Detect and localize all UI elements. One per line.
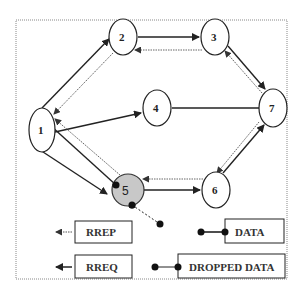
- edge-2-1-rrep: [54, 53, 113, 114]
- legend-data-label: DATA: [235, 226, 265, 238]
- node-7: 7: [259, 89, 287, 127]
- node-5-label: 5: [122, 184, 129, 198]
- edge-7-6-rrep: [217, 122, 259, 173]
- node-6-label: 6: [212, 184, 218, 196]
- node-1: 1: [29, 108, 55, 152]
- legend-rreq: RREQ: [56, 255, 132, 278]
- legend-dropped-data: DROPPED DATA: [152, 254, 286, 278]
- legend-data: DATA: [198, 219, 285, 243]
- legend-rrep: RREP: [56, 221, 132, 243]
- node-3: 3: [201, 19, 229, 55]
- routing-diagram: 1 2 3 4 5 6 7 RREP RREQ: [0, 0, 301, 295]
- edge-1-4-rreq: [55, 113, 141, 132]
- node-6: 6: [202, 172, 230, 208]
- edge-3-7-rreq: [228, 46, 265, 89]
- node-5: 5: [112, 174, 144, 209]
- node-1-label: 1: [38, 124, 44, 136]
- legend-dropped-data-label: DROPPED DATA: [189, 261, 275, 273]
- legend-rrep-label: RREP: [86, 226, 116, 238]
- node-7-label: 7: [269, 102, 275, 114]
- node-4-label: 4: [153, 102, 159, 114]
- edge-7-3-rrep: [225, 51, 262, 93]
- edge-1-5-rreq: [40, 150, 107, 194]
- node-4: 4: [143, 90, 171, 126]
- node-3-label: 3: [211, 31, 217, 43]
- edge-6-7-rreq: [223, 125, 264, 173]
- legend: RREP RREQ DATA DROPPED DATA: [56, 219, 285, 278]
- legend-rreq-label: RREQ: [86, 261, 118, 273]
- node-2-label: 2: [119, 31, 125, 43]
- edge-1-2-rreq: [42, 39, 109, 108]
- node-2: 2: [109, 19, 137, 55]
